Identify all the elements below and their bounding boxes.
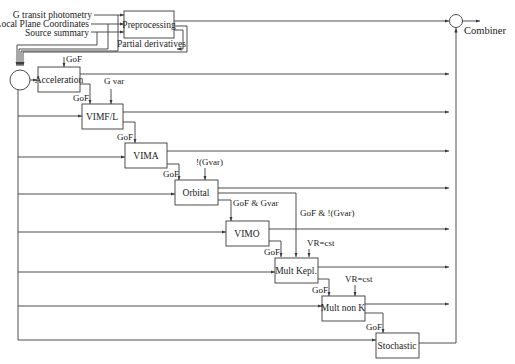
block-preprocessing-label: Preprocessing [122,20,176,30]
label-vr-cst-1: VR=cst [307,238,335,248]
label-gof-and-not-gvar: GoF & !(Gvar) [300,208,355,218]
combiner-label: Combiner [464,25,506,36]
block-mult-kepl-label: Mult Kepl. [275,266,317,276]
label-vr-cst-2: VR=cst [345,274,373,284]
block-vima-label: VIMA [133,151,158,161]
label-gof-orbital: GoF [163,169,179,179]
label-not-gvar: !(Gvar) [196,157,223,167]
block-orbital-label: Orbital [183,188,210,198]
label-gof-and-gvar: GoF & Gvar [233,198,279,208]
label-gof-vimfl: GoF [73,93,89,103]
label-gof-stochastic: GoF [366,322,382,332]
label-g-var: G var [104,76,124,86]
block-vimo-label: VIMO [234,229,259,239]
combiner-node [450,15,463,28]
input-source-summary: Source summary [25,28,89,38]
label-gof-multkepl: GoF [264,247,280,257]
block-stochastic-label: Stochastic [377,341,416,351]
arrow-orbital-to-vimo [218,200,231,221]
label-gof-acceleration: GoF [66,54,82,64]
pipeline-diagram: G transit photometry Local Plane Coordin… [0,0,515,364]
label-gof-vima: GoF [117,132,133,142]
block-acceleration-label: Acceleration [35,75,84,85]
label-gof-multnonk: GoF [312,285,328,295]
splitter-node [10,70,30,90]
partial-derivatives-label: Partial derivatives [117,39,186,49]
block-vimfl-label: VIMF/L [86,112,118,122]
block-mult-non-k-label: Mult non K [321,303,365,313]
